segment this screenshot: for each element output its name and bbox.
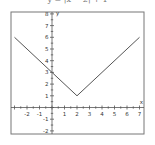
y-tick-label: -1	[43, 116, 48, 122]
y-tick-label: 4	[45, 58, 49, 64]
function-graph: -2-11234567-2-112345678xy	[0, 0, 155, 145]
x-tick-label: -1	[37, 111, 42, 117]
y-tick-label: -2	[43, 128, 48, 134]
x-tick-label: -2	[24, 111, 29, 117]
y-tick-label: 8	[45, 11, 49, 17]
y-tick-label: 3	[45, 69, 49, 75]
y-axis-label: y	[56, 10, 60, 17]
x-tick-label: 5	[113, 111, 117, 117]
tick-labels: -2-11234567-2-112345678xy	[24, 10, 143, 134]
y-tick-label: 2	[45, 81, 49, 87]
x-tick-label: 6	[125, 111, 129, 117]
y-tick-label: 6	[45, 34, 49, 40]
x-axis-label: x	[140, 99, 144, 105]
y-tick-label: 5	[45, 46, 49, 52]
abs-value-curve	[15, 37, 140, 96]
x-tick-label: 1	[63, 111, 67, 117]
x-tick-label: 3	[88, 111, 92, 117]
x-tick-label: 7	[138, 111, 142, 117]
x-tick-label: 2	[75, 111, 79, 117]
y-tick-label: 1	[45, 93, 49, 99]
y-tick-label: 7	[45, 23, 49, 29]
x-tick-label: 4	[100, 111, 104, 117]
